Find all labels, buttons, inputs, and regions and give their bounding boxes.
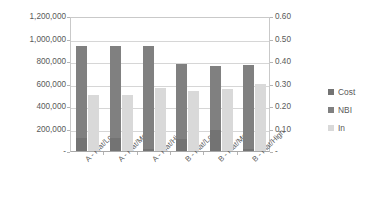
- category-axis-tick: [203, 152, 204, 155]
- bar-group: [243, 18, 266, 151]
- bar-in: [88, 95, 99, 151]
- bar-cost: [176, 139, 187, 151]
- left-axis-tick: [67, 85, 70, 86]
- left-axis-tick-label: 200,000: [36, 126, 66, 134]
- right-axis-tick-label: 0.20: [275, 103, 291, 111]
- bar-nbi: [143, 46, 154, 151]
- left-axis-tick: [67, 62, 70, 63]
- legend-label: NBI: [338, 106, 352, 114]
- right-axis-tick: [270, 17, 273, 18]
- legend-swatch-icon: [328, 107, 334, 113]
- bar-chart: -200,000400,000600,000800,0001,000,0001,…: [0, 0, 377, 213]
- left-axis-tick-label: 800,000: [36, 58, 66, 66]
- right-axis-tick: [270, 152, 273, 153]
- bar-group: [210, 18, 233, 151]
- right-axis-tick-label: -: [275, 148, 278, 156]
- left-axis-tick: [67, 17, 70, 18]
- bar-group: [143, 18, 166, 151]
- left-axis-tick-label: -: [63, 148, 66, 156]
- gridline: [71, 86, 269, 87]
- legend-swatch-icon: [328, 125, 334, 131]
- category-axis-tick: [170, 152, 171, 155]
- right-axis-tick: [270, 85, 273, 86]
- left-axis-tick: [67, 152, 70, 153]
- category-axis-tick: [237, 152, 238, 155]
- chart-legend: CostNBIIn: [328, 84, 355, 138]
- left-axis-tick: [67, 107, 70, 108]
- bar-in: [155, 88, 166, 151]
- left-axis-tick-label: 1,200,000: [30, 13, 66, 21]
- bar-cost: [243, 149, 254, 151]
- legend-item: NBI: [328, 102, 355, 118]
- legend-label: Cost: [338, 88, 355, 96]
- bar-nbi: [76, 46, 87, 151]
- bar-nbi: [243, 65, 254, 151]
- right-axis-tick-label: 0.60: [275, 13, 291, 21]
- left-axis-tick-label: 600,000: [36, 81, 66, 89]
- right-axis-tick-label: 0.50: [275, 36, 291, 44]
- bar-cost: [210, 130, 221, 151]
- bar-group: [176, 18, 199, 151]
- right-axis-tick-label: 0.30: [275, 81, 291, 89]
- bar-cost: [76, 138, 87, 151]
- bar-in: [255, 84, 266, 152]
- bar-in: [222, 89, 233, 151]
- left-axis-tick-label: 1,000,000: [30, 36, 66, 44]
- gridline: [71, 41, 269, 42]
- bar-group: [110, 18, 133, 151]
- left-axis-tick: [67, 40, 70, 41]
- bar-in: [188, 91, 199, 151]
- category-axis-tick: [103, 152, 104, 155]
- legend-label: In: [338, 124, 345, 132]
- gridline: [71, 108, 269, 109]
- right-axis-tick: [270, 130, 273, 131]
- bar-cost: [110, 138, 121, 151]
- left-axis-tick: [67, 130, 70, 131]
- gridline: [71, 131, 269, 132]
- left-axis-tick-label: 400,000: [36, 103, 66, 111]
- right-axis-tick: [270, 40, 273, 41]
- right-axis-tick: [270, 62, 273, 63]
- bar-group: [76, 18, 99, 151]
- right-axis-tick-label: 0.40: [275, 58, 291, 66]
- legend-item: Cost: [328, 84, 355, 100]
- bar-cost: [143, 149, 154, 151]
- right-axis-tick: [270, 107, 273, 108]
- legend-swatch-icon: [328, 89, 334, 95]
- bar-in: [122, 95, 133, 151]
- bar-nbi: [110, 46, 121, 151]
- legend-item: In: [328, 120, 355, 136]
- category-axis-tick: [137, 152, 138, 155]
- gridline: [71, 63, 269, 64]
